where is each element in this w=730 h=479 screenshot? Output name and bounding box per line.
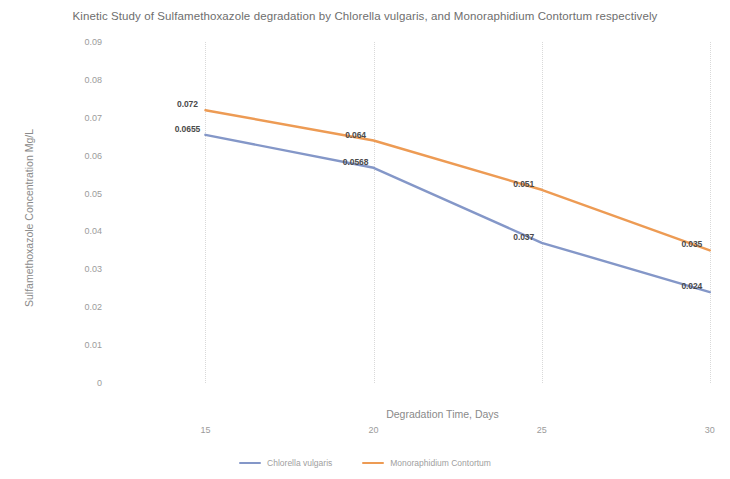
x-axis-title: Degradation Time, Days: [155, 408, 730, 420]
legend-item[interactable]: Monoraphidium Contortum: [362, 458, 491, 468]
plot-area: 0.090.080.070.060.050.040.030.020.010 15…: [60, 36, 730, 384]
data-point-label: 0.024: [681, 281, 702, 291]
chart-container: Kinetic Study of Sulfamethoxazole degrad…: [0, 0, 730, 479]
chart-legend: Chlorella vulgarisMonoraphidium Contortu…: [0, 458, 730, 468]
x-axis-tick-label: 25: [537, 425, 547, 435]
data-point-label: 0.037: [513, 232, 534, 242]
legend-swatch-icon: [239, 462, 261, 465]
x-axis-tick-label: 20: [369, 425, 379, 435]
legend-swatch-icon: [362, 462, 384, 465]
data-point-label: 0.051: [513, 179, 534, 189]
chart-title: Kinetic Study of Sulfamethoxazole degrad…: [0, 10, 730, 22]
y-axis-title: Sulfamethoxazole Concentration Mg/L: [23, 93, 35, 343]
data-point-label: 0.072: [177, 99, 198, 109]
series-line: [205, 110, 709, 250]
series-lines: [60, 36, 730, 384]
legend-label: Monoraphidium Contortum: [390, 458, 491, 468]
data-point-label: 0.0655: [175, 124, 200, 134]
x-axis-tick-label: 30: [705, 425, 715, 435]
data-point-label: 0.0568: [343, 157, 368, 167]
data-point-label: 0.035: [681, 239, 702, 249]
x-axis-tick-label: 15: [200, 425, 210, 435]
legend-item[interactable]: Chlorella vulgaris: [239, 458, 332, 468]
data-point-label: 0.064: [345, 130, 366, 140]
series-line: [205, 135, 709, 292]
legend-label: Chlorella vulgaris: [267, 458, 332, 468]
